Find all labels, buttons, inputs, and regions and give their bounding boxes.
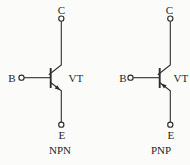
npn-linework xyxy=(19,16,64,127)
pnp-transistor-symbol: C B E VT PNP xyxy=(109,0,190,165)
npn-base-label: B xyxy=(8,72,15,84)
pnp-emitter-terminal-circle xyxy=(168,122,173,127)
pnp-designator-label: VT xyxy=(174,72,189,84)
pnp-base-label: B xyxy=(119,72,126,84)
npn-emitter-label: E xyxy=(58,129,65,141)
npn-designator-label: VT xyxy=(69,72,84,84)
pnp-collector-label: C xyxy=(166,4,173,16)
npn-collector-label: C xyxy=(58,4,65,16)
pnp-collector-wire xyxy=(158,21,171,74)
pnp-base-terminal-circle xyxy=(128,75,133,80)
pnp-collector-terminal-circle xyxy=(168,16,173,21)
npn-collector-wire xyxy=(49,21,62,74)
npn-type-label: NPN xyxy=(49,144,71,156)
npn-emitter-terminal-circle xyxy=(59,122,64,127)
npn-collector-terminal-circle xyxy=(59,16,64,21)
pnp-linework xyxy=(128,16,173,127)
npn-transistor-symbol: C B E VT NPN xyxy=(0,0,95,165)
pnp-emitter-label: E xyxy=(167,129,174,141)
pnp-emitter-wire xyxy=(160,83,171,123)
transistor-schematic-canvas: C B E VT NPN C B E VT PNP xyxy=(0,0,190,165)
pnp-type-label: PNP xyxy=(151,144,171,156)
npn-base-terminal-circle xyxy=(19,75,24,80)
